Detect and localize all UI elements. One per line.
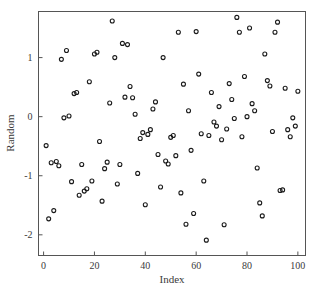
data-point: [113, 56, 117, 60]
data-point: [202, 179, 206, 183]
data-point: [54, 160, 58, 164]
data-point: [136, 171, 140, 175]
data-point: [265, 79, 269, 83]
data-point: [197, 72, 201, 76]
data-point: [263, 52, 267, 56]
data-point: [115, 182, 119, 186]
data-point: [118, 163, 122, 167]
data-point: [225, 127, 229, 131]
data-point: [235, 15, 239, 19]
data-point: [148, 128, 152, 132]
data-point: [181, 82, 185, 86]
x-tick-label: 40: [140, 260, 150, 271]
data-point: [217, 105, 221, 109]
data-point: [283, 86, 287, 90]
data-point: [90, 179, 94, 183]
y-tick-label: -2: [24, 229, 32, 240]
data-point: [255, 166, 259, 170]
data-point: [57, 164, 61, 168]
data-point: [64, 48, 68, 52]
data-point: [44, 144, 48, 148]
data-point: [276, 20, 280, 24]
data-point: [222, 223, 226, 227]
x-tick-label: 0: [41, 260, 46, 271]
data-point: [67, 114, 71, 118]
data-point: [70, 180, 74, 184]
y-axis-tick-labels: 10-1-2: [24, 52, 32, 240]
x-tick-label: 20: [89, 260, 99, 271]
data-point: [232, 116, 236, 120]
x-axis-tick-labels: 020406080100: [41, 260, 305, 271]
data-point: [87, 80, 91, 84]
scatter-markers: [44, 15, 300, 242]
data-point: [143, 203, 147, 207]
data-point: [123, 95, 127, 99]
data-point: [227, 82, 231, 86]
data-point: [207, 134, 211, 138]
data-point: [105, 160, 109, 164]
data-point: [133, 112, 137, 116]
data-point: [153, 100, 157, 104]
x-tick-label: 100: [290, 260, 305, 271]
y-tick-label: 1: [28, 52, 33, 63]
data-point: [291, 116, 295, 120]
data-point: [156, 152, 160, 156]
data-point: [288, 135, 292, 139]
data-point: [209, 90, 213, 94]
scatter-plot-figure: 020406080100 10-1-2 Index Random: [0, 0, 318, 296]
data-point: [253, 109, 257, 113]
plot-canvas: 020406080100 10-1-2 Index Random: [0, 0, 318, 296]
data-point: [62, 116, 66, 120]
data-point: [47, 217, 51, 221]
data-point: [126, 43, 130, 47]
data-point: [187, 109, 191, 113]
data-point: [131, 96, 135, 100]
data-point: [120, 41, 124, 45]
x-tick-label: 80: [242, 260, 252, 271]
data-point: [184, 222, 188, 226]
y-axis-ticks: [39, 58, 43, 235]
data-point: [85, 187, 89, 191]
data-point: [250, 102, 254, 106]
data-point: [179, 191, 183, 195]
data-point: [296, 89, 300, 93]
data-point: [204, 238, 208, 242]
data-point: [260, 214, 264, 218]
data-point: [273, 30, 277, 34]
data-point: [240, 135, 244, 139]
data-point: [128, 85, 132, 89]
y-tick-label: 0: [28, 111, 33, 122]
data-point: [215, 124, 219, 128]
data-point: [194, 30, 198, 34]
data-point: [138, 137, 142, 141]
data-point: [268, 84, 272, 88]
data-point: [141, 131, 145, 135]
data-point: [98, 139, 102, 143]
data-point: [248, 26, 252, 30]
data-point: [108, 101, 112, 105]
data-point: [100, 199, 104, 203]
data-point: [80, 163, 84, 167]
x-axis-title: Index: [159, 273, 185, 285]
data-point: [176, 30, 180, 34]
data-point: [245, 115, 249, 119]
data-point: [159, 185, 163, 189]
y-tick-label: -1: [24, 170, 32, 181]
data-point: [281, 188, 285, 192]
data-point: [242, 74, 246, 78]
data-point: [192, 212, 196, 216]
data-point: [59, 57, 63, 61]
data-point: [103, 167, 107, 171]
y-axis-title: Random: [4, 114, 16, 152]
data-point: [258, 201, 262, 205]
data-point: [146, 132, 150, 136]
data-point: [237, 30, 241, 34]
x-axis-ticks: [44, 252, 298, 256]
data-point: [270, 129, 274, 133]
data-point: [212, 120, 216, 124]
data-point: [230, 98, 234, 102]
data-point: [151, 107, 155, 111]
data-point: [166, 162, 170, 166]
data-point: [189, 148, 193, 152]
data-point: [110, 19, 114, 23]
